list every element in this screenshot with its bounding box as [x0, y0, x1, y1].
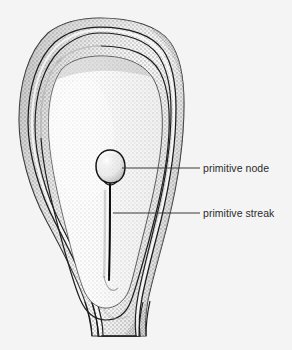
label-primitive-node: primitive node	[203, 162, 269, 174]
embryo-illustration-svg	[0, 0, 292, 350]
label-primitive-streak: primitive streak	[203, 207, 274, 219]
embryo-figure: primitive node primitive streak	[0, 0, 292, 350]
